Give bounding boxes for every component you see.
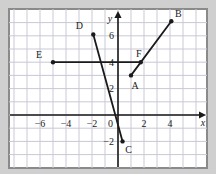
x-axis-label: x [200, 117, 206, 128]
point-label-D: D [76, 20, 83, 31]
point-label-C: C [125, 144, 132, 155]
point-label-F: F [136, 48, 142, 59]
x-tick-label--4: −4 [61, 118, 72, 129]
data-point-D[interactable] [91, 32, 95, 36]
data-point-C[interactable] [120, 139, 124, 143]
coordinate-plane: yx−6−4−2024−2246ABCDEF [0, 0, 216, 174]
data-point-F[interactable] [139, 60, 143, 64]
x-tick-label-4: 4 [168, 118, 173, 129]
x-tick-label--2: −2 [87, 118, 98, 129]
data-point-E[interactable] [51, 60, 55, 64]
data-point-B[interactable] [169, 19, 173, 23]
point-label-E: E [36, 49, 42, 60]
y-tick-label--2: −2 [103, 136, 114, 147]
x-tick-label-2: 2 [142, 118, 147, 129]
y-tick-label-6: 6 [109, 30, 114, 41]
x-tick-label--6: −6 [35, 118, 46, 129]
y-axis-label: y [107, 13, 113, 24]
point-label-B: B [175, 8, 182, 19]
data-point-A[interactable] [129, 73, 133, 77]
graph-figure: yx−6−4−2024−2246ABCDEF [0, 0, 216, 174]
x-tick-label-0: 0 [108, 118, 113, 129]
point-label-A: A [131, 80, 139, 91]
